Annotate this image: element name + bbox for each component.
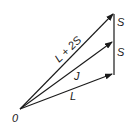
vector-diagram: 0 L J L + 2S S S [0, 0, 133, 130]
origin-label: 0 [12, 112, 19, 124]
vector-l2s-arrow [20, 14, 113, 109]
vector-j-label: J [73, 70, 80, 82]
s-upper-label: S [117, 16, 125, 28]
vector-l-arrow [20, 74, 112, 109]
s-lower-label: S [117, 46, 125, 58]
vector-l-label: L [70, 90, 76, 102]
